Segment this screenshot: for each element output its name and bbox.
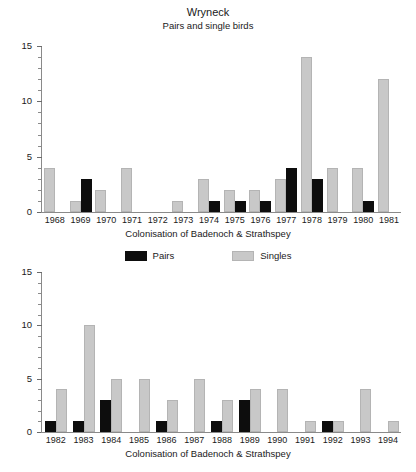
bar-singles-1969 (70, 201, 81, 212)
bar-singles-1988 (222, 400, 233, 432)
bar-pairs-1978 (312, 179, 323, 212)
x-axis-tick-label: 1983 (70, 434, 98, 446)
x-axis-tick-label: 1994 (374, 434, 402, 446)
bar-group (119, 46, 145, 212)
legend-swatch-pairs-icon (125, 251, 147, 261)
bar-singles-1976 (249, 190, 260, 212)
bar-pairs-1976 (260, 201, 271, 212)
bar-singles-1991 (305, 421, 316, 432)
bar-singles-1979 (327, 168, 338, 212)
bar-group (347, 272, 375, 432)
page-subtitle: Pairs and single birds (0, 19, 416, 32)
bar-singles-1994 (388, 421, 399, 432)
bar-pairs-1969 (81, 179, 92, 212)
bar-singles-1992 (333, 421, 344, 432)
chart-top: 051015 196819691970197119721973197419751… (0, 46, 416, 246)
bar-singles-1989 (250, 389, 261, 432)
bar-singles-1974 (198, 179, 209, 212)
legend-label-pairs: Pairs (153, 250, 175, 261)
bar-group (248, 46, 274, 212)
bar-pairs-1983 (73, 421, 84, 432)
x-axis-tick-label: 1987 (180, 434, 208, 446)
bar-group (264, 272, 292, 432)
x-axis-tick-label: 1973 (171, 214, 197, 226)
y-axis-tick-label: 0 (4, 207, 32, 216)
bar-group (273, 46, 299, 212)
bar-group (70, 272, 98, 432)
x-axis-tick-label: 1990 (264, 434, 292, 446)
bars-container (42, 272, 402, 432)
bar-pairs-1986 (156, 421, 167, 432)
bar-singles-1984 (111, 379, 122, 432)
bar-group (196, 46, 222, 212)
bar-group (93, 46, 119, 212)
y-axis-tick-label: 15 (4, 267, 32, 276)
bar-group (180, 272, 208, 432)
bar-pairs-1975 (235, 201, 246, 212)
bar-pairs-1974 (209, 201, 220, 212)
x-axis-tick-label: 1977 (273, 214, 299, 226)
chart-legend: Pairs Singles (0, 250, 416, 261)
x-axis-tick-label: 1986 (153, 434, 181, 446)
x-axis-tick-label: 1968 (42, 214, 68, 226)
bar-group (171, 46, 197, 212)
y-axis-tick-label: 0 (4, 427, 32, 436)
bar-group (42, 272, 70, 432)
bar-pairs-1977 (286, 168, 297, 212)
x-axis-tick-label: 1975 (222, 214, 248, 226)
x-axis-tick-label: 1970 (93, 214, 119, 226)
bar-singles-1975 (224, 190, 235, 212)
bars-container (42, 46, 402, 212)
bar-group (350, 46, 376, 212)
bar-group (153, 272, 181, 432)
x-axis-tick-label: 1985 (125, 434, 153, 446)
bar-singles-1971 (121, 168, 132, 212)
bar-group (299, 46, 325, 212)
bar-singles-1982 (56, 389, 67, 432)
bar-singles-1978 (301, 57, 312, 212)
x-axis-tick-label: 1991 (291, 434, 319, 446)
legend-item-pairs: Pairs (125, 250, 175, 261)
x-axis-tick-label: 1969 (68, 214, 94, 226)
x-axis-tick-label: 1979 (325, 214, 351, 226)
bar-pairs-1989 (239, 400, 250, 432)
bar-singles-1981 (378, 79, 389, 212)
bar-pairs-1982 (45, 421, 56, 432)
bar-group (97, 272, 125, 432)
bar-singles-1980 (352, 168, 363, 212)
bar-group (68, 46, 94, 212)
x-axis-labels-top: 1968196919701971197219731974197519761977… (42, 214, 402, 226)
x-axis-tick-label: 1988 (208, 434, 236, 446)
bar-singles-1977 (275, 179, 286, 212)
x-axis (41, 432, 401, 433)
bar-group (42, 46, 68, 212)
bar-pairs-1980 (363, 201, 374, 212)
bar-singles-1987 (194, 379, 205, 432)
x-axis-tick-label: 1972 (145, 214, 171, 226)
x-axis-labels-bottom: 1982198319841985198619871988198919901991… (42, 434, 402, 446)
x-axis-tick-label: 1971 (119, 214, 145, 226)
x-axis-tick-label: 1981 (376, 214, 402, 226)
x-axis-caption-top: Colonisation of Badenoch & Strathspey (0, 228, 416, 239)
chart-bottom: 051015 198219831984198519861987198819891… (0, 272, 416, 462)
x-axis-tick-label: 1984 (97, 434, 125, 446)
y-axis-tick-label: 15 (4, 41, 32, 50)
bar-singles-1970 (95, 190, 106, 212)
x-axis-tick-label: 1993 (347, 434, 375, 446)
bar-singles-1968 (44, 168, 55, 212)
y-axis-tick-label: 10 (4, 320, 32, 329)
bar-group (208, 272, 236, 432)
legend-swatch-singles-icon (232, 251, 254, 261)
y-axis-tick-label: 5 (4, 152, 32, 161)
bar-pairs-1984 (100, 400, 111, 432)
bar-singles-1983 (84, 325, 95, 432)
page-title: Wryneck (0, 5, 416, 19)
y-axis-tick-label: 5 (4, 374, 32, 383)
x-axis (41, 212, 401, 213)
legend-label-singles: Singles (260, 250, 291, 261)
x-axis-tick-label: 1992 (319, 434, 347, 446)
x-axis-tick-label: 1978 (299, 214, 325, 226)
x-axis-caption-bottom: Colonisation of Badenoch & Strathspey (0, 448, 416, 459)
bar-group (125, 272, 153, 432)
bar-group (145, 46, 171, 212)
